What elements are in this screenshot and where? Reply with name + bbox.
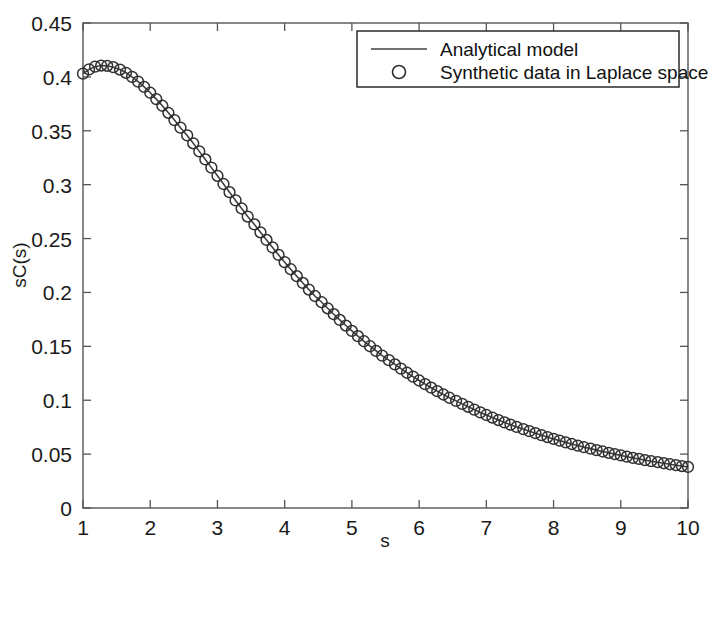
x-tick-label: 3 — [212, 516, 224, 539]
x-tick-label: 10 — [676, 516, 699, 539]
axes-frame — [83, 23, 688, 508]
x-axis-ticks — [83, 23, 688, 508]
x-tick-label: 8 — [548, 516, 560, 539]
x-tick-label: 6 — [413, 516, 425, 539]
y-tick-label: 0.2 — [43, 281, 72, 304]
x-tick-label: 4 — [279, 516, 291, 539]
y-tick-label: 0.3 — [43, 174, 72, 197]
legend-label-synthetic-data: Synthetic data in Laplace space — [440, 62, 708, 83]
y-tick-label: 0.05 — [31, 443, 72, 466]
y-tick-label: 0.25 — [31, 228, 72, 251]
legend-label-analytical-model: Analytical model — [440, 39, 578, 60]
y-axis-title: sC(s) — [9, 242, 30, 287]
y-axis-tick-labels: 00.050.10.150.20.250.30.350.40.45 — [31, 12, 72, 520]
x-tick-label: 2 — [144, 516, 156, 539]
y-tick-label: 0.1 — [43, 389, 72, 412]
x-tick-label: 9 — [615, 516, 627, 539]
y-axis-ticks — [83, 23, 688, 508]
chart-legend: Analytical model Synthetic data in Lapla… — [357, 31, 708, 87]
y-tick-label: 0.45 — [31, 12, 72, 35]
chart-plot: 12345678910 00.050.10.150.20.250.30.350.… — [0, 0, 715, 566]
y-tick-label: 0.4 — [43, 66, 73, 89]
x-axis-title: s — [380, 530, 390, 551]
y-tick-label: 0.15 — [31, 335, 72, 358]
figure-container: 12345678910 00.050.10.150.20.250.30.350.… — [0, 0, 715, 632]
x-tick-label: 1 — [77, 516, 89, 539]
x-tick-label: 7 — [480, 516, 492, 539]
y-tick-label: 0 — [60, 497, 72, 520]
y-tick-label: 0.35 — [31, 120, 72, 143]
x-tick-label: 5 — [346, 516, 358, 539]
synthetic-data-markers — [78, 60, 694, 472]
